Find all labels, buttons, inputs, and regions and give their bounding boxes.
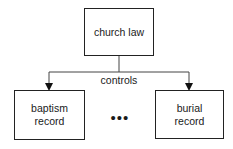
parent-node-label: church law bbox=[94, 26, 144, 39]
child-node-baptism-record: baptism record bbox=[14, 90, 85, 140]
relation-label-controls: controls bbox=[94, 74, 144, 86]
child-node-burial-record: burial record bbox=[155, 90, 224, 139]
ellipsis-dots: ••• bbox=[100, 109, 140, 126]
child-node-label-line1: burial bbox=[175, 102, 205, 115]
child-node-label-line2: record bbox=[31, 115, 68, 128]
parent-node-church-law: church law bbox=[84, 8, 154, 56]
child-node-label-line1: baptism bbox=[31, 102, 68, 115]
child-node-label-line2: record bbox=[175, 115, 205, 128]
